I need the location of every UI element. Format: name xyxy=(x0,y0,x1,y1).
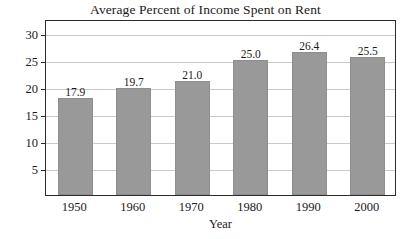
gridline xyxy=(46,143,395,144)
x-tick-label: 1980 xyxy=(237,200,262,215)
bar xyxy=(116,88,151,195)
gridline xyxy=(46,170,395,171)
gridline xyxy=(46,89,395,90)
bar xyxy=(233,60,268,195)
x-axis-label: Year xyxy=(45,217,396,232)
bar xyxy=(175,81,210,195)
y-tick-label: 25 xyxy=(0,54,38,69)
y-tick-mark xyxy=(41,143,46,144)
bar-value-label: 26.4 xyxy=(299,40,319,52)
y-tick-label: 5 xyxy=(0,162,38,177)
bar-value-label: 19.7 xyxy=(124,76,144,88)
y-tick-mark xyxy=(41,35,46,36)
x-tick-label: 2000 xyxy=(354,200,379,215)
bar xyxy=(58,98,93,195)
plot-inner: 17.919.721.025.026.425.5 xyxy=(46,21,395,195)
bar xyxy=(292,52,327,195)
x-tick-label: 1990 xyxy=(296,200,321,215)
x-tick-label: 1970 xyxy=(179,200,204,215)
bar-chart: Average Percent of Income Spent on Rent … xyxy=(0,0,411,239)
y-tick-mark xyxy=(41,116,46,117)
bar-value-label: 25.5 xyxy=(358,45,378,57)
y-tick-label: 30 xyxy=(0,27,38,42)
y-tick-label: 15 xyxy=(0,108,38,123)
bar-value-label: 25.0 xyxy=(241,48,261,60)
x-tick-label: 1960 xyxy=(120,200,145,215)
x-tick-label: 1950 xyxy=(62,200,87,215)
y-tick-label: 20 xyxy=(0,81,38,96)
gridline xyxy=(46,62,395,63)
bar xyxy=(350,57,385,195)
y-tick-mark xyxy=(41,89,46,90)
y-tick-mark xyxy=(41,170,46,171)
plot-area: 17.919.721.025.026.425.5 51015202530 xyxy=(45,20,396,196)
gridline xyxy=(46,35,395,36)
bar-value-label: 21.0 xyxy=(182,69,202,81)
chart-title: Average Percent of Income Spent on Rent xyxy=(0,2,411,18)
gridline xyxy=(46,116,395,117)
y-tick-label: 10 xyxy=(0,135,38,150)
bar-value-label: 17.9 xyxy=(65,86,85,98)
y-tick-mark xyxy=(41,62,46,63)
